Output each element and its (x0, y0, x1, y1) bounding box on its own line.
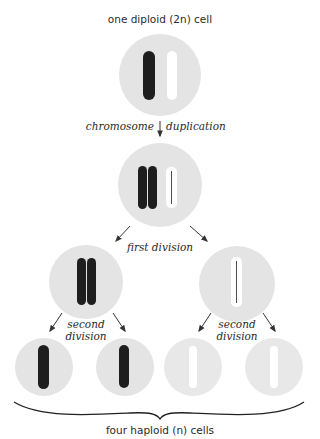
first-division-right-cell (199, 246, 275, 322)
second-division-label-left-2: division (65, 330, 106, 342)
second-division-arrow-4 (263, 313, 275, 331)
grouping-brace (14, 402, 304, 419)
first-division-label: first division (126, 241, 193, 253)
second-division-arrow-2 (113, 313, 125, 331)
first-division-arrow-left (116, 226, 130, 241)
haploid-cell-3 (164, 338, 222, 396)
haploid-cell-2 (96, 338, 154, 396)
second-division-label-right-1: second (218, 318, 256, 330)
first-division-arrow-right (190, 226, 207, 241)
duplication-label-left: chromosome (86, 120, 154, 132)
meiosis-diagram: one diploid (2n) cell chromosome duplica… (0, 0, 320, 439)
title-label: one diploid (2n) cell (108, 13, 212, 25)
diploid-cell (119, 34, 201, 116)
duplicated-cell (118, 143, 202, 227)
first-division-left-cell (49, 245, 123, 319)
footer-label: four haploid (n) cells (106, 424, 214, 436)
second-division-arrow-1 (50, 313, 62, 331)
second-division-arrow-3 (199, 313, 211, 331)
dark-chromosome (143, 51, 155, 100)
duplication-label-right: duplication (166, 120, 226, 132)
haploid-cell-1 (15, 338, 73, 396)
light-chromosome (167, 51, 177, 100)
second-division-label-right-2: division (216, 330, 257, 342)
second-division-label-left-1: second (67, 318, 105, 330)
haploid-cell-4 (245, 338, 303, 396)
